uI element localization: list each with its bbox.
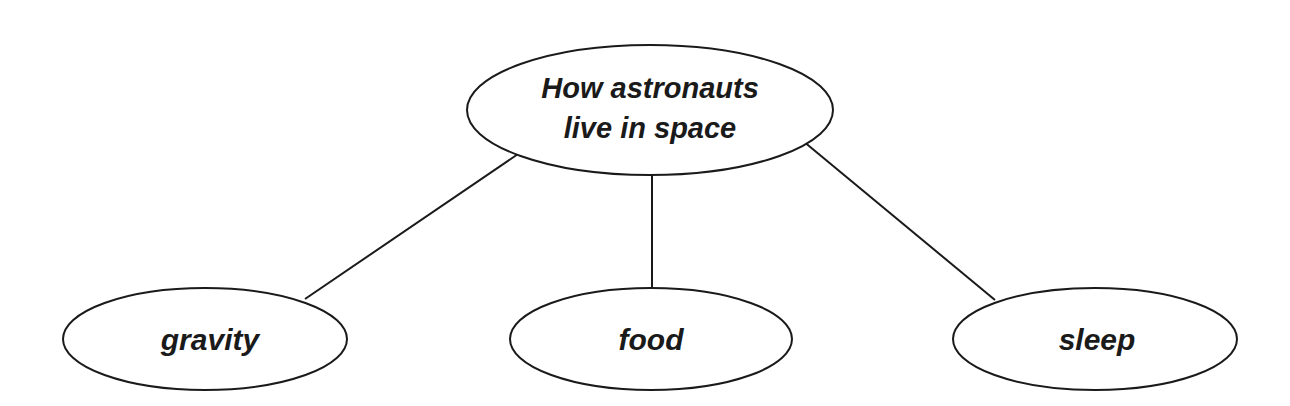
- root-node-ellipse: [467, 45, 833, 175]
- concept-map: How astronauts live in space gravity foo…: [0, 0, 1290, 406]
- child-node-sleep: sleep: [953, 288, 1237, 390]
- sleep-node-label: sleep: [1059, 323, 1136, 356]
- child-node-food: food: [510, 288, 792, 390]
- gravity-node-label: gravity: [160, 323, 261, 356]
- root-node-label-line-2: live in space: [564, 112, 737, 144]
- root-node-label-line-1: How astronauts: [541, 72, 759, 104]
- edge-root-sleep: [803, 141, 995, 300]
- child-node-gravity: gravity: [63, 288, 347, 390]
- food-node-label: food: [619, 323, 685, 356]
- root-node: How astronauts live in space: [467, 45, 833, 175]
- edge-root-gravity: [305, 152, 521, 299]
